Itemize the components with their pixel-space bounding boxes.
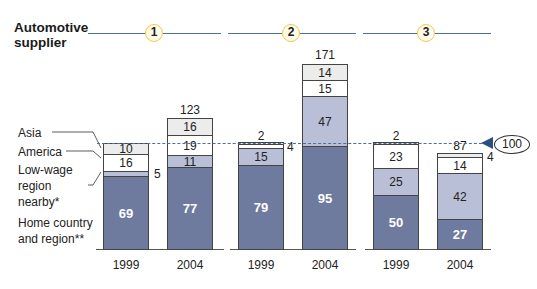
label-asia: 2	[373, 129, 419, 143]
bar-segment-america: 16	[103, 154, 149, 172]
bar-total: 123	[167, 103, 213, 117]
bar-segment-home: 27	[437, 219, 483, 250]
bar-total: 87	[437, 139, 483, 153]
reference-label: 100	[494, 135, 530, 154]
bar-segment-low-wage: 15	[238, 148, 284, 166]
bar-segment-america: 23	[373, 144, 419, 169]
bar-segment-home: 79	[238, 165, 284, 250]
bar-segment-home: 69	[103, 176, 149, 250]
label-asia: 2	[238, 129, 284, 143]
bar-segment-low-wage: 42	[437, 173, 483, 220]
bar-segment-low-wage: 25	[373, 168, 419, 196]
x-tick-label: 2004	[167, 258, 213, 272]
reference-arrow-icon	[481, 137, 493, 149]
x-tick-label: 2004	[302, 258, 348, 272]
bar-segment-asia: 10	[103, 143, 149, 155]
x-tick-label: 1999	[238, 258, 284, 272]
reference-line-100	[97, 143, 497, 144]
bar-segment-asia: 14	[302, 64, 348, 81]
bar-segment-home: 77	[167, 167, 213, 250]
bar-total: 171	[302, 48, 348, 62]
bar-segment-home: 50	[373, 195, 419, 250]
label-asia: 4	[487, 150, 494, 164]
x-tick-label: 1999	[103, 258, 149, 272]
bar-segment-home: 95	[302, 146, 348, 250]
bar-segment-low-wage: 47	[302, 96, 348, 147]
bar-segment-america: 19	[167, 135, 213, 156]
bar-segment-low-wage: 11	[167, 155, 213, 168]
bar-segment-america: 14	[437, 157, 483, 174]
x-tick-label: 2004	[437, 258, 483, 272]
label-low-wage: 5	[154, 167, 161, 181]
bar-segment-asia	[437, 153, 483, 158]
x-tick-label: 1999	[373, 258, 419, 272]
bar-segment-asia: 16	[167, 118, 213, 136]
bar-segment-america: 15	[302, 80, 348, 97]
